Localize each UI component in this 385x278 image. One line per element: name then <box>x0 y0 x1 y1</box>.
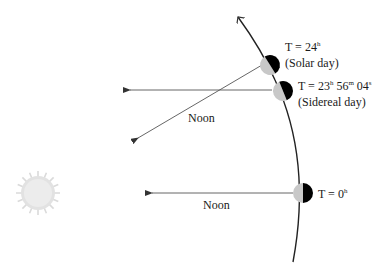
earth-solar <box>256 51 284 79</box>
orbit-diagram: Noon Noon T = 0h T = 24h (Solar day) T =… <box>0 0 385 278</box>
label-t0: T = 0h <box>318 187 348 201</box>
earth-t0 <box>293 183 313 203</box>
earth-sidereal <box>270 78 296 104</box>
label-sidereal: T = 23h 56m 04s <box>298 79 372 93</box>
caption-solar: (Solar day) <box>285 56 339 70</box>
label-solar: T = 24h <box>285 40 321 54</box>
caption-sidereal: (Sidereal day) <box>298 95 366 109</box>
noon-label-solar: Noon <box>188 111 215 125</box>
sun-icon <box>16 171 60 215</box>
noon-label-t0: Noon <box>203 198 230 212</box>
noon-arrow-solar <box>138 65 262 138</box>
